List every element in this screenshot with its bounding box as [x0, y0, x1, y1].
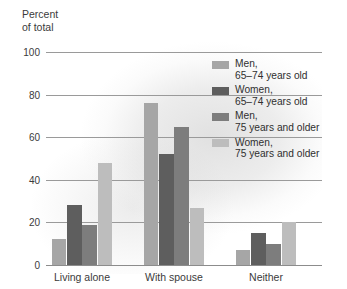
x-axis-label-2: Neither — [249, 271, 283, 283]
legend-swatch-icon-2 — [212, 113, 229, 121]
y-tick-label-0: 0 — [4, 260, 40, 271]
bar-living-alone-series-1 — [67, 205, 82, 265]
bar-living-alone-series-0 — [52, 239, 67, 265]
legend-swatch-icon-1 — [212, 87, 229, 95]
bar-with-spouse-series-3 — [190, 208, 205, 266]
y-tick-label-100: 100 — [4, 47, 40, 58]
bar-neither-series-3 — [282, 222, 297, 265]
legend-item-2: Men, 75 years and older — [212, 110, 344, 133]
bar-with-spouse-series-2 — [174, 127, 189, 265]
legend-label-2: Men, 75 years and older — [235, 110, 319, 133]
legend-swatch-icon-0 — [212, 61, 229, 69]
x-axis-label-0: Living alone — [54, 271, 110, 283]
legend: Men, 65–74 years oldWomen, 65–74 years o… — [212, 58, 344, 163]
legend-item-3: Women, 75 years and older — [212, 137, 344, 160]
bar-living-alone-series-2 — [82, 225, 97, 265]
gridline-100 — [46, 52, 322, 53]
y-axis-title: Percent of total — [22, 8, 58, 33]
y-tick-label-40: 40 — [4, 174, 40, 185]
gridline-0 — [46, 265, 322, 266]
bar-neither-series-2 — [266, 244, 281, 265]
y-tick-label-60: 60 — [4, 132, 40, 143]
legend-item-1: Women, 65–74 years old — [212, 84, 344, 107]
legend-label-3: Women, 75 years and older — [235, 137, 319, 160]
legend-swatch-icon-3 — [212, 139, 229, 147]
bar-living-alone-series-3 — [98, 163, 113, 265]
x-axis-label-1: With spouse — [145, 271, 203, 283]
bar-with-spouse-series-0 — [144, 103, 159, 265]
bar-chart: Percent of total 020406080100 Living alo… — [0, 0, 347, 289]
legend-item-0: Men, 65–74 years old — [212, 58, 344, 81]
bar-neither-series-1 — [251, 233, 266, 265]
bar-with-spouse-series-1 — [159, 154, 174, 265]
y-tick-label-20: 20 — [4, 217, 40, 228]
legend-label-1: Women, 65–74 years old — [235, 84, 308, 107]
bar-neither-series-0 — [236, 250, 251, 265]
y-tick-label-80: 80 — [4, 89, 40, 100]
legend-label-0: Men, 65–74 years old — [235, 58, 308, 81]
